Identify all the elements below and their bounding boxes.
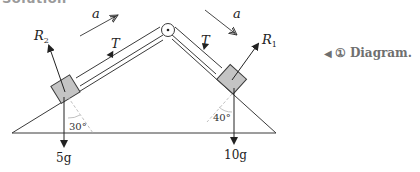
pulley-icon: [162, 24, 175, 37]
reaction-right-label: R1: [261, 32, 277, 49]
weight-right-label: 10g: [224, 148, 247, 162]
reaction-left-label: R2: [33, 28, 49, 45]
weight-arrows: [64, 88, 234, 146]
caption-number: ①: [335, 46, 346, 60]
caption-marker-icon: ◀: [324, 48, 332, 59]
angle-left-label: 30°: [69, 121, 87, 132]
accel-left-label: a: [92, 6, 100, 21]
inclined-plane-diagram: a a T T R2 R1 30° 40° 5g 10g: [0, 0, 420, 172]
tension-left-label: T: [111, 36, 121, 51]
figure-caption: ◀① Diagram.: [324, 46, 412, 60]
accel-right-label: a: [233, 6, 241, 21]
caption-text: Diagram.: [350, 46, 412, 60]
block-right: [217, 64, 247, 94]
left-slope: [12, 40, 163, 133]
block-left: [51, 75, 80, 104]
angle-right-label: 40°: [213, 112, 231, 123]
acceleration-arrows: [80, 10, 237, 36]
angle-guides: [68, 94, 232, 133]
weight-left-label: 5g: [56, 151, 72, 165]
tension-right-label: T: [201, 33, 211, 48]
